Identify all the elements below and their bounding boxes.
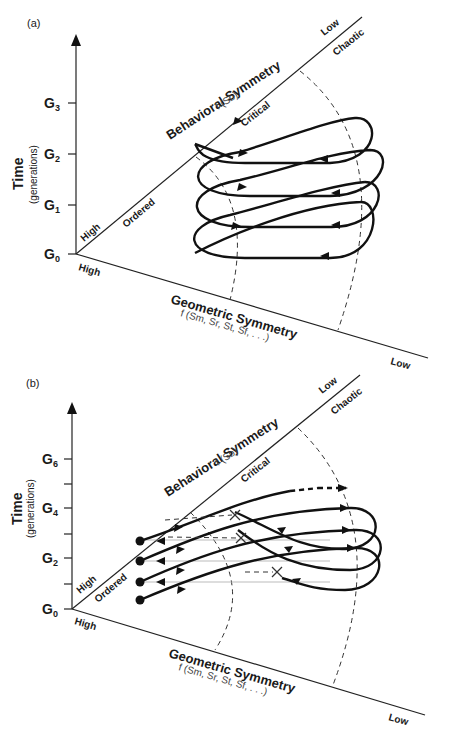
geometric-axis (72, 609, 425, 715)
panel-a: (a) G0 G1 G2 G3 Time (generations) Behav… (10, 16, 428, 371)
tick-g6: G6 (42, 451, 58, 469)
geometric-high-label: High (73, 615, 97, 632)
behavioral-axis (72, 375, 360, 609)
geometric-low-label: Low (389, 355, 411, 371)
extinction-x-mark (236, 533, 246, 543)
tick-g4: G4 (42, 500, 58, 518)
lineage-trajectories (136, 484, 381, 605)
critical-chaotic-boundary (300, 71, 362, 330)
svg-text:G0: G0 (44, 246, 60, 264)
time-axis-arrow-icon (67, 402, 77, 414)
tick-g3: G3 (44, 95, 60, 113)
region-chaotic-label: Chaotic (330, 26, 366, 58)
y-axis-title: Time (9, 492, 25, 525)
geometric-low-label: Low (387, 711, 409, 727)
tick-g2: G2 (44, 146, 60, 164)
svg-text:G3: G3 (44, 95, 60, 113)
time-axis-arrow-icon (71, 34, 81, 46)
svg-text:G2: G2 (44, 146, 60, 164)
panel-b: (b) G0 G2 G4 G6 Time (generations) Behav… (9, 374, 425, 727)
diagram-canvas: (a) G0 G1 G2 G3 Time (generations) Behav… (0, 0, 449, 734)
behavioral-high-label: High (78, 221, 102, 244)
y-axis-title: Time (10, 157, 26, 190)
svg-text:G2: G2 (42, 550, 58, 568)
critical-chaotic-boundary (298, 428, 357, 685)
behavioral-high-label: High (74, 573, 98, 596)
y-axis-subtitle: (generations) (28, 145, 39, 204)
svg-text:G1: G1 (44, 197, 60, 215)
tick-g1: G1 (44, 197, 60, 215)
ordered-critical-boundary (196, 157, 237, 300)
panel-b-label: (b) (26, 377, 39, 389)
region-chaotic-label: Chaotic (328, 385, 364, 417)
helical-trajectory (194, 117, 383, 260)
panel-a-label: (a) (27, 17, 40, 29)
svg-text:G6: G6 (42, 451, 58, 469)
svg-text:G0: G0 (42, 601, 58, 619)
behavioral-low-label: Low (318, 16, 341, 37)
behavioral-low-label: Low (316, 374, 339, 395)
tick-g0: G0 (42, 601, 58, 619)
region-critical-label: Critical (238, 99, 272, 129)
svg-text:G4: G4 (42, 500, 58, 518)
geometric-high-label: High (77, 261, 101, 278)
geometric-axis (76, 254, 428, 358)
y-axis-subtitle: (generations) (25, 479, 36, 538)
tick-g2: G2 (42, 550, 58, 568)
tick-g0: G0 (44, 246, 60, 264)
extinction-x-mark (272, 567, 282, 577)
